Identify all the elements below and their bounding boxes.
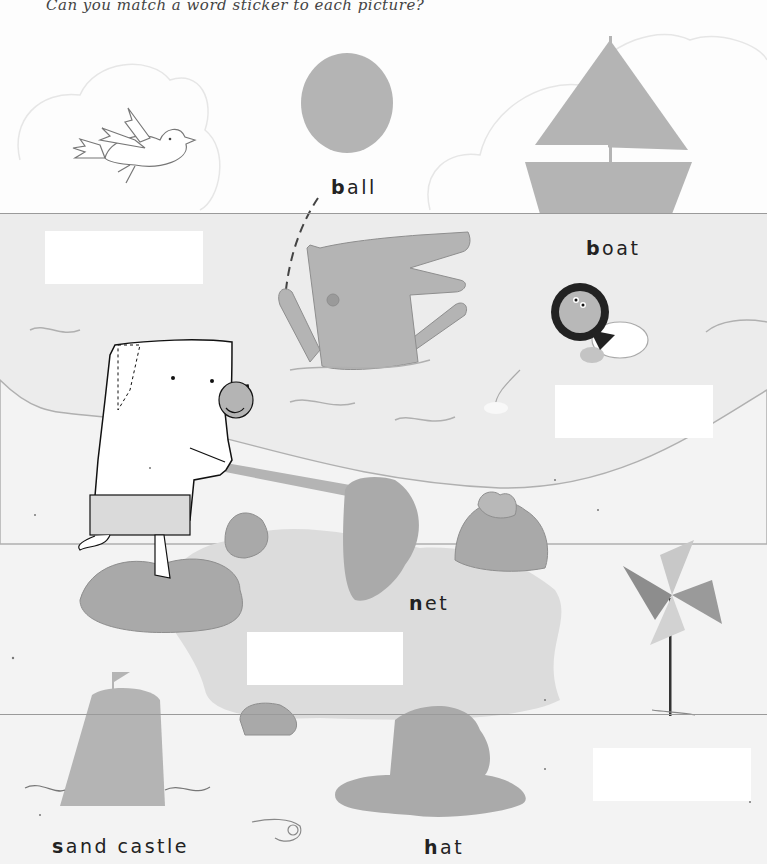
shell-icon bbox=[252, 819, 301, 841]
word-sand-castle: sand castle bbox=[52, 835, 189, 857]
sailboat-icon bbox=[525, 36, 692, 214]
section-divider bbox=[0, 213, 767, 214]
word-hat: hat bbox=[424, 836, 464, 858]
sand-castle-icon bbox=[60, 672, 165, 806]
word-net: net bbox=[409, 592, 449, 614]
activity-page: Can you match a word sticker to each pic… bbox=[0, 0, 767, 864]
sticker-slot-2[interactable] bbox=[555, 385, 713, 438]
ball-icon bbox=[301, 53, 393, 153]
bird-icon bbox=[73, 108, 195, 183]
pinwheel-icon bbox=[623, 540, 722, 716]
crocodile-icon bbox=[279, 232, 470, 369]
word-boat: boat bbox=[586, 237, 640, 259]
sticker-slot-3[interactable] bbox=[247, 632, 403, 685]
rock-icon bbox=[225, 513, 268, 558]
hat-icon bbox=[335, 706, 526, 817]
pufferfish-sticker-icon bbox=[551, 283, 615, 350]
section-divider bbox=[0, 714, 767, 715]
sticker-slot-4[interactable] bbox=[593, 748, 751, 801]
sticker-slot-1[interactable] bbox=[45, 231, 203, 284]
word-ball: ball bbox=[331, 176, 377, 198]
